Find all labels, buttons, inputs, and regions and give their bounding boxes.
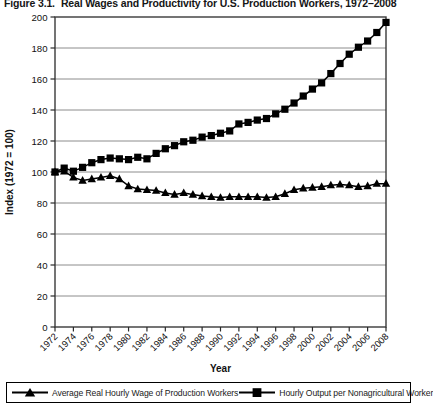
- triangle-marker-icon: [11, 387, 49, 398]
- x-axis-tick-label: 2000: [295, 331, 318, 354]
- y-axis-tick-label: 80: [37, 198, 48, 209]
- data-point-square: [143, 155, 150, 162]
- data-point-square: [180, 138, 187, 145]
- legend-label-wage: Average Real Hourly Wage of Production W…: [52, 388, 238, 398]
- data-point-square: [263, 115, 270, 122]
- data-point-square: [97, 156, 104, 163]
- legend-label-productivity: Hourly Output per Nonagricultural Worker: [279, 388, 433, 398]
- x-axis-tick-label: 1984: [147, 331, 170, 354]
- x-axis-tick-label: 1988: [184, 331, 207, 354]
- data-point-square: [373, 29, 380, 36]
- data-point-square: [327, 70, 334, 77]
- data-point-square: [134, 154, 141, 161]
- data-point-square: [208, 132, 215, 139]
- x-axis: 1972197419761978198019821984198619881990…: [37, 327, 391, 353]
- legend-item-wage: Average Real Hourly Wage of Production W…: [11, 387, 238, 398]
- data-point-square: [336, 60, 343, 67]
- y-axis-title: Index (1972 = 100): [4, 129, 15, 215]
- data-point-square: [226, 127, 233, 134]
- x-axis-tick-label: 1994: [239, 331, 262, 354]
- x-axis-tick-label: 1974: [55, 331, 78, 354]
- data-point-square: [364, 37, 371, 44]
- x-axis-tick-label: 2004: [331, 331, 354, 354]
- data-point-square: [199, 134, 206, 141]
- x-axis-tick-label: 1976: [74, 331, 97, 354]
- data-point-triangle: [180, 189, 188, 197]
- data-point-square: [272, 110, 279, 117]
- figure-caption-number: Figure 3.1.: [4, 0, 55, 9]
- data-point-triangle: [124, 182, 132, 190]
- x-axis-tick-label: 1980: [111, 331, 134, 354]
- data-point-square: [88, 159, 95, 166]
- y-axis-tick-label: 140: [31, 105, 47, 116]
- series-productivity: [51, 19, 389, 176]
- y-axis-tick-label: 0: [42, 322, 47, 333]
- x-axis-tick-label: 1998: [276, 331, 299, 354]
- data-point-square: [355, 44, 362, 51]
- data-point-square: [309, 85, 316, 92]
- x-axis-tick-label: 1986: [166, 331, 189, 354]
- data-point-square: [79, 164, 86, 171]
- data-point-triangle: [106, 171, 114, 179]
- chart-legend: Average Real Hourly Wage of Production W…: [6, 382, 411, 403]
- data-point-square: [281, 106, 288, 113]
- square-marker-icon: [238, 387, 276, 398]
- data-point-square: [290, 99, 297, 106]
- data-point-square: [51, 168, 58, 175]
- chart-svg: 020406080100120140160180200Index (1972 =…: [0, 12, 419, 374]
- y-axis-tick-label: 160: [31, 74, 47, 85]
- data-point-square: [171, 142, 178, 149]
- data-point-square: [70, 168, 77, 175]
- data-point-square: [162, 145, 169, 152]
- x-axis-tick-label: 1982: [129, 331, 152, 354]
- data-point-square: [244, 119, 251, 126]
- chart-plot-area: 020406080100120140160180200Index (1972 =…: [0, 12, 419, 374]
- data-point-square: [116, 155, 123, 162]
- series-line: [55, 22, 386, 172]
- data-point-square: [346, 51, 353, 58]
- data-point-square: [318, 79, 325, 86]
- data-point-square: [107, 154, 114, 161]
- data-point-triangle: [336, 180, 344, 188]
- figure-caption: Figure 3.1.Real Wages and Productivity f…: [4, 0, 419, 11]
- x-axis-tick-label: 1996: [258, 331, 281, 354]
- legend-item-productivity: Hourly Output per Nonagricultural Worker: [238, 387, 433, 398]
- y-axis-tick-label: 120: [31, 136, 47, 147]
- y-axis-tick-label: 200: [31, 12, 47, 23]
- data-point-square: [254, 116, 261, 123]
- data-point-square: [235, 120, 242, 127]
- x-axis-tick-label: 2008: [368, 331, 391, 354]
- x-axis-tick-label: 1972: [37, 331, 60, 354]
- x-axis-title: Year: [210, 363, 231, 374]
- figure-caption-text: Real Wages and Productivity for U.S. Pro…: [61, 0, 397, 9]
- y-axis-tick-label: 60: [37, 229, 48, 240]
- chart-gridlines: [55, 48, 386, 296]
- data-point-square: [61, 165, 68, 172]
- data-point-square: [153, 150, 160, 157]
- y-axis-tick-label: 100: [31, 167, 47, 178]
- data-point-square: [382, 19, 389, 26]
- x-axis-tick-label: 2006: [350, 331, 373, 354]
- x-axis-tick-label: 1992: [221, 331, 244, 354]
- y-axis-tick-label: 180: [31, 43, 47, 54]
- x-axis-tick-label: 1978: [92, 331, 115, 354]
- y-axis-tick-label: 20: [37, 291, 48, 302]
- data-point-square: [125, 156, 132, 163]
- data-point-square: [217, 130, 224, 137]
- y-axis-tick-label: 40: [37, 260, 48, 271]
- data-point-square: [189, 137, 196, 144]
- x-axis-tick-label: 1990: [203, 331, 226, 354]
- x-axis-tick-label: 2002: [313, 331, 336, 354]
- data-point-square: [300, 92, 307, 99]
